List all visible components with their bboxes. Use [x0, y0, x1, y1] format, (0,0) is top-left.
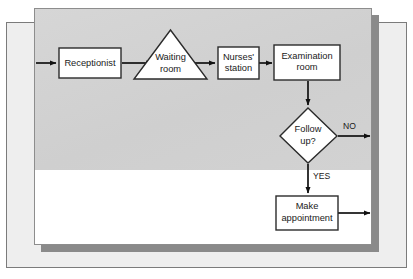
node-nurses-station-label-line2: station	[225, 63, 252, 73]
node-follow-up-label-line1: Follow	[295, 124, 322, 134]
node-nurses-station-label-line1: Nurses'	[223, 52, 254, 62]
edge-label-no: NO	[343, 121, 356, 131]
flowchart-screenshot: Receptionist Waiting room Nurses' statio…	[0, 0, 413, 279]
flowchart: Receptionist Waiting room Nurses' statio…	[0, 0, 413, 279]
node-make-appointment: Make appointment	[276, 196, 338, 230]
node-examination-room: Examination room	[274, 45, 340, 80]
node-waiting-room-label-line2: room	[160, 64, 181, 74]
node-waiting-room: Waiting room	[134, 30, 207, 79]
node-receptionist-label: Receptionist	[64, 58, 116, 68]
node-make-appointment-label-line2: appointment	[281, 213, 333, 223]
edge-label-yes: YES	[313, 171, 330, 181]
node-examination-room-label-line2: room	[296, 62, 317, 72]
node-follow-up-label-line2: up?	[300, 136, 316, 146]
node-receptionist: Receptionist	[59, 48, 121, 78]
node-examination-room-label-line1: Examination	[281, 51, 332, 61]
node-make-appointment-label-line1: Make	[296, 201, 319, 211]
node-nurses-station: Nurses' station	[218, 47, 259, 79]
node-waiting-room-label-line1: Waiting	[155, 52, 186, 62]
node-follow-up: Follow up?	[280, 108, 337, 163]
